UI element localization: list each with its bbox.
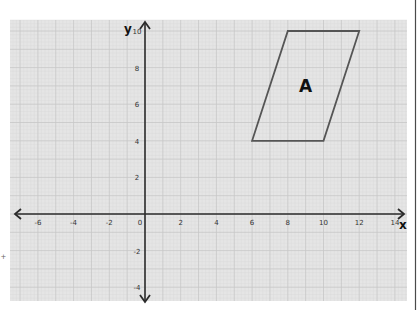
x-tick-label: 6	[250, 219, 255, 227]
y-axis-label: y	[124, 22, 132, 36]
x-tick-label: -4	[70, 219, 78, 227]
stray-plus-mark: +	[1, 253, 7, 261]
coordinate-plane: -6-4-202468101214 -4-2246810 x y A +	[0, 0, 417, 310]
y-tick-label: -2	[134, 248, 141, 256]
x-tick-label: -2	[106, 219, 113, 227]
y-tick-label: 6	[135, 101, 140, 109]
y-tick-label: -4	[134, 284, 142, 292]
x-tick-label: 10	[319, 219, 328, 227]
y-tick-label: 10	[133, 28, 142, 36]
x-tick-label: 2	[178, 219, 182, 227]
y-tick-label: 2	[135, 174, 139, 182]
y-tick-label: 8	[135, 65, 139, 73]
grid-background	[10, 20, 407, 301]
x-axis-label: x	[399, 218, 407, 232]
x-tick-label: 12	[355, 219, 364, 227]
x-tick-label: 0	[138, 219, 142, 227]
y-tick-label: 4	[135, 138, 140, 146]
x-tick-label: 4	[214, 219, 219, 227]
shape-label-a: A	[299, 76, 313, 96]
x-tick-label: -6	[34, 219, 42, 227]
x-tick-label: 8	[286, 219, 290, 227]
